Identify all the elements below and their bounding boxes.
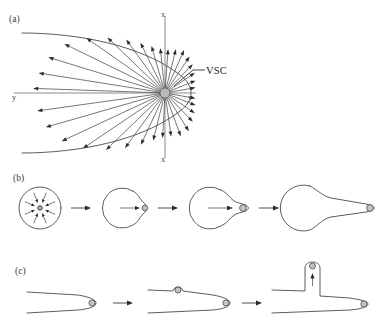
arrowhead-icon <box>35 213 38 217</box>
inward-vector-7 <box>48 202 55 205</box>
figure-root: (a) x x y y VSC (b) <box>0 0 381 322</box>
panel-a: (a) x x y y VSC <box>9 9 227 164</box>
arrowhead-icon <box>180 50 184 56</box>
vsc-node <box>38 206 43 211</box>
vsc-node <box>367 205 374 212</box>
panel-b-stage-2 <box>102 188 147 228</box>
arrowhead-icon <box>45 210 49 213</box>
arrowhead-icon <box>85 205 91 210</box>
arrowhead-icon <box>189 109 194 113</box>
panel-b-stage-4 <box>280 185 374 231</box>
arrowhead-icon <box>273 205 279 210</box>
arrowhead-icon <box>190 96 195 100</box>
inward-vector-5 <box>34 193 37 200</box>
arrowhead-icon <box>169 131 173 136</box>
arrowhead-icon <box>64 44 70 48</box>
panel-a-label: (a) <box>9 14 20 25</box>
vsc-vector-8 <box>153 51 164 88</box>
arrowhead-icon <box>42 213 45 217</box>
arrowhead-icon <box>31 210 35 213</box>
inward-vector-4 <box>25 202 32 205</box>
vsc-vector-23 <box>167 98 179 131</box>
panel-c: (c) <box>15 262 368 313</box>
arrowhead-icon <box>159 48 163 53</box>
arrowhead-icon <box>256 300 262 305</box>
vsc-node <box>160 88 170 98</box>
branch-vsc-node <box>175 287 181 293</box>
branch-vsc-node <box>310 263 316 269</box>
arrowhead-icon <box>42 199 45 203</box>
arrowhead-icon <box>310 273 314 279</box>
arrowhead-icon <box>185 57 189 62</box>
cell-outline <box>280 185 374 231</box>
arrowhead-icon <box>172 205 178 210</box>
arrowhead-icon <box>46 124 52 128</box>
tube-outline <box>272 262 368 313</box>
arrowhead-icon <box>31 203 35 206</box>
vsc-annotation: VSC <box>206 65 227 76</box>
arrowhead-icon <box>190 81 196 85</box>
arrowhead-icon <box>39 72 44 76</box>
apical-vsc-node <box>223 300 229 306</box>
arrowhead-icon <box>62 137 68 141</box>
arrowhead-icon <box>135 206 140 210</box>
panel-c-label: (c) <box>15 266 26 277</box>
vsc-vector-5 <box>111 41 161 89</box>
vsc-vector-9 <box>161 53 165 87</box>
arrowhead-icon <box>227 206 233 211</box>
arrowhead-icon <box>189 73 194 77</box>
arrowhead-icon <box>140 43 144 49</box>
vsc-vector-6 <box>129 44 162 89</box>
vsc-vector-26 <box>154 98 163 135</box>
arrowhead-icon <box>45 203 49 206</box>
arrowhead-icon <box>161 133 165 138</box>
arrowhead-icon <box>184 126 188 131</box>
vsc-vector-30 <box>87 96 160 145</box>
arrowhead-icon <box>173 49 177 55</box>
inward-vector-1 <box>43 216 46 223</box>
arrowhead-icon <box>35 199 38 203</box>
vsc-vector-field <box>33 37 196 150</box>
panel-b: (b) <box>13 173 374 231</box>
arrowhead-icon <box>126 40 131 45</box>
panel-b-stage-1 <box>19 187 61 229</box>
arrowhead-icon <box>190 102 196 106</box>
vsc-node <box>142 205 148 211</box>
vsc-vector-33 <box>42 94 159 110</box>
tube-outline <box>148 287 230 313</box>
apical-vsc-node <box>361 301 367 307</box>
vsc-vector-16 <box>170 83 191 91</box>
panel-b-arrow-3 <box>259 205 279 210</box>
panel-c-stage-2 <box>148 287 230 313</box>
inward-vector-0 <box>48 211 55 214</box>
vsc-vector-3 <box>69 46 160 90</box>
arrowhead-icon <box>125 143 130 148</box>
inward-vector-6 <box>43 193 46 200</box>
arrowhead-icon <box>141 139 145 145</box>
arrowhead-icon <box>33 87 38 91</box>
vsc-node <box>240 205 247 212</box>
arrowhead-icon <box>48 57 54 61</box>
inward-vector-3 <box>25 211 32 214</box>
arrowhead-icon <box>127 300 133 305</box>
panel-b-stage-3 <box>189 187 248 229</box>
arrowhead-icon <box>151 46 155 52</box>
arrowhead-icon <box>177 131 181 137</box>
arrowhead-icon <box>37 108 42 112</box>
vsc-node <box>89 300 95 306</box>
vsc-vector-24 <box>166 98 171 131</box>
tube-outline <box>27 292 96 313</box>
arrowhead-icon <box>190 87 195 91</box>
panel-c-stage-1 <box>27 292 96 313</box>
panel-b-label: (b) <box>13 173 24 184</box>
panel-c-stage-3 <box>272 262 368 313</box>
panel-b-arrow-2 <box>158 205 178 210</box>
arrowhead-icon <box>166 49 170 54</box>
vsc-vector-25 <box>163 98 165 132</box>
panel-c-arrow-2 <box>242 300 262 305</box>
panel-b-arrow-1 <box>71 205 91 210</box>
panel-c-arrow-1 <box>113 300 133 305</box>
arrowhead-icon <box>153 135 157 141</box>
inward-vector-2 <box>34 216 37 223</box>
